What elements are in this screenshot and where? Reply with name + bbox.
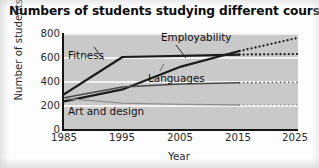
- y-tick-600: 600: [30, 53, 60, 63]
- x-tick-1985: 1985: [41, 132, 87, 143]
- series-label-fitness: Fitness: [68, 50, 104, 60]
- y-tick-200: 200: [30, 101, 60, 111]
- chart-page: Numbers of students studying different c…: [0, 0, 319, 168]
- x-axis-ticks: 1985 1995 2005 2015 2025: [0, 132, 319, 148]
- x-tick-2005: 2005: [157, 132, 203, 143]
- y-tick-800: 800: [30, 29, 60, 39]
- x-tick-1995: 1995: [99, 132, 145, 143]
- series-label-languages: Languages: [148, 73, 205, 83]
- y-tick-400: 400: [30, 77, 60, 87]
- series-path-art-and-design: [64, 98, 240, 105]
- plot-area: Employability Fitness Languages Art and …: [62, 33, 298, 131]
- x-axis-label: Year: [62, 150, 296, 162]
- x-tick-2025: 2025: [272, 132, 318, 143]
- x-tick-2015: 2015: [215, 132, 261, 143]
- series-path-fitness-projected: [240, 54, 299, 55]
- series-path-languages-projected: [240, 82, 299, 83]
- series-path-employability-projected: [240, 38, 299, 51]
- series-label-art-and-design: Art and design: [68, 106, 144, 116]
- y-axis-label: Number of students: [13, 7, 24, 101]
- series-label-employability: Employability: [161, 32, 232, 42]
